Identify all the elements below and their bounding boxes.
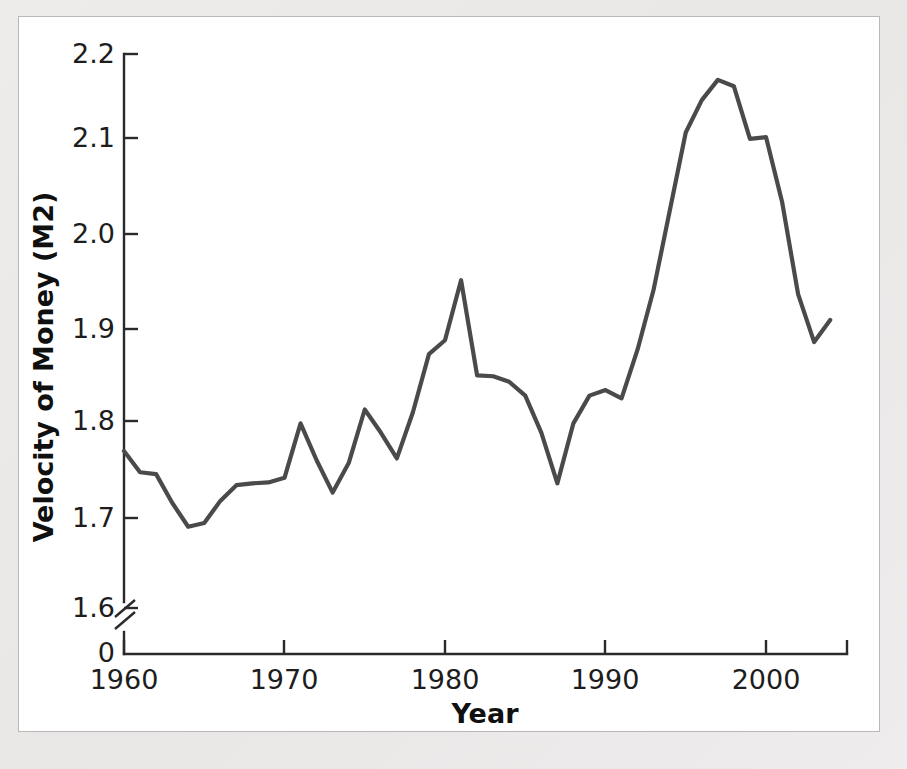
y-tick-label-2-2: 2.2 bbox=[72, 38, 115, 69]
y-tick-label-2-0: 2.0 bbox=[72, 218, 115, 249]
velocity-of-money-line-chart: Velocity of Money (M2) 2.2 2.1 2.0 1.9 1… bbox=[19, 17, 879, 731]
y-tick-label-1-8: 1.8 bbox=[72, 405, 115, 436]
x-axis-title: Year bbox=[451, 698, 520, 729]
x-tick-label-2000: 2000 bbox=[732, 664, 801, 695]
y-tick-label-1-7: 1.7 bbox=[72, 502, 115, 533]
y-tick-label-1-6: 1.6 bbox=[72, 592, 115, 623]
x-tick-label-1990: 1990 bbox=[571, 664, 640, 695]
y-tick-label-1-9: 1.9 bbox=[72, 313, 115, 344]
y-axis-break-icon bbox=[115, 600, 135, 629]
page-root: Velocity of Money (M2) 2.2 2.1 2.0 1.9 1… bbox=[0, 0, 907, 769]
data-series-line bbox=[124, 80, 830, 527]
x-tick-label-1970: 1970 bbox=[250, 664, 319, 695]
x-tick-label-1960: 1960 bbox=[90, 664, 159, 695]
y-axis-title: Velocity of Money (M2) bbox=[28, 192, 59, 543]
figure-panel: Velocity of Money (M2) 2.2 2.1 2.0 1.9 1… bbox=[18, 16, 880, 732]
y-tick-label-2-1: 2.1 bbox=[72, 122, 115, 153]
x-tick-label-1980: 1980 bbox=[411, 664, 480, 695]
